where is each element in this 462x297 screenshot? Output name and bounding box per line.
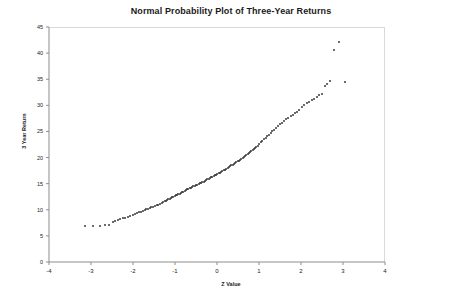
data-point — [275, 127, 277, 129]
x-tick-label: 3 — [333, 268, 353, 275]
data-point — [338, 41, 340, 43]
x-tick-label: -2 — [123, 268, 143, 275]
data-point — [316, 96, 318, 98]
data-point — [261, 140, 263, 142]
data-point — [99, 225, 101, 227]
x-tick-label: -3 — [81, 268, 101, 275]
data-point — [273, 129, 275, 131]
plot-area — [49, 27, 385, 262]
data-point — [258, 143, 260, 145]
data-point — [114, 220, 116, 222]
data-point — [318, 94, 320, 96]
data-point — [292, 114, 294, 116]
data-point — [324, 85, 326, 87]
normal-probability-plot: Normal Probability Plot of Three-Year Re… — [0, 0, 462, 297]
data-point — [333, 49, 335, 51]
y-tick-label: 30 — [23, 102, 43, 108]
x-tick-label: 0 — [207, 268, 227, 275]
y-tick-label: 10 — [23, 207, 43, 213]
y-tick-label: 35 — [23, 76, 43, 82]
data-point — [108, 224, 110, 226]
x-tick-label: 2 — [291, 268, 311, 275]
data-point — [104, 224, 106, 226]
y-tick-label: 20 — [23, 155, 43, 161]
y-tick-label: 5 — [23, 233, 43, 239]
data-point — [344, 81, 346, 83]
data-point — [308, 101, 310, 103]
data-point — [92, 225, 94, 227]
data-point — [277, 125, 279, 127]
y-tick-label: 25 — [23, 128, 43, 134]
data-point — [301, 106, 303, 108]
data-point — [290, 115, 292, 117]
data-point — [329, 80, 331, 82]
data-point — [326, 83, 328, 85]
data-point — [298, 109, 300, 111]
y-tick-label: 15 — [23, 181, 43, 187]
y-tick-label: 40 — [23, 50, 43, 56]
data-point — [270, 132, 272, 134]
x-axis-label: Z Value — [0, 281, 462, 287]
x-tick-label: 1 — [249, 268, 269, 275]
data-point — [287, 117, 289, 119]
x-tick-label: -1 — [165, 268, 185, 275]
data-point — [283, 120, 285, 122]
y-tick-label: 45 — [23, 24, 43, 30]
data-point — [321, 93, 323, 95]
data-point — [296, 111, 298, 113]
x-tick-label: -4 — [39, 268, 59, 275]
y-tick-label: 0 — [23, 259, 43, 265]
data-point — [119, 218, 121, 220]
x-tick-label: 4 — [375, 268, 395, 275]
data-point — [84, 225, 86, 227]
data-point — [313, 98, 315, 100]
data-point — [303, 104, 305, 106]
